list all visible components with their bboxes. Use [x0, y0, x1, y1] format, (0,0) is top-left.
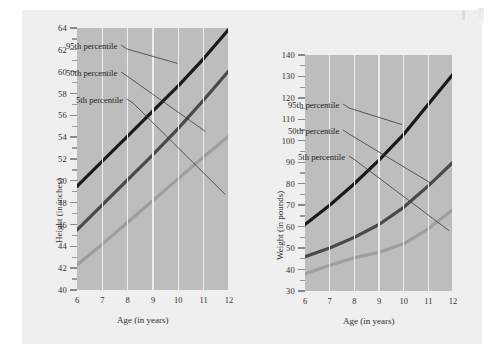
y-axis-tick [298, 119, 305, 120]
gridline [178, 28, 179, 290]
y-axis-tick [70, 136, 77, 137]
weight-chart-plot-area [305, 55, 453, 291]
x-axis-tick-label: 10 [399, 296, 408, 306]
y-axis-tick [298, 54, 305, 55]
gridline [228, 28, 229, 290]
series-annotation-label: 5th percentile [76, 95, 123, 105]
y-axis-tick [70, 180, 77, 181]
gridline [203, 28, 204, 290]
y-axis-tick-label: 30 [286, 286, 295, 296]
weight-chart-x-axis-title: Age (in years) [343, 316, 394, 326]
series-annotation-label: 50th percentile [288, 126, 339, 136]
gridline [329, 55, 330, 291]
series-annotation-label: 95th percentile [288, 100, 339, 110]
y-axis-tick [70, 93, 77, 94]
y-axis-tick-label: 100 [282, 136, 295, 146]
y-axis-tick [70, 267, 77, 268]
x-axis-tick-label: 11 [200, 295, 208, 305]
y-axis-tick-label: 110 [282, 114, 295, 124]
series-annotation-label: 50th percentile [66, 68, 117, 78]
gridline [127, 28, 128, 290]
gridline [452, 55, 453, 291]
series-annotation-label: 95th percentile [66, 41, 117, 51]
x-axis-tick-label: 6 [303, 296, 307, 306]
height-chart-y-axis-title: Height (in inches) [54, 178, 64, 243]
x-axis-tick-label: 12 [225, 295, 234, 305]
x-axis-tick-label: 6 [75, 295, 79, 305]
page-corner-tick [462, 10, 465, 20]
y-axis-tick-label: 64 [58, 23, 67, 33]
y-axis-tick [70, 289, 77, 290]
y-axis-tick [298, 204, 305, 205]
y-axis-tick-label: 140 [282, 50, 295, 60]
y-axis-tick-label: 50 [286, 243, 295, 253]
x-axis-tick-label: 10 [174, 295, 183, 305]
y-axis-tick [298, 97, 305, 98]
gridline [378, 55, 379, 291]
y-axis-tick [298, 226, 305, 227]
x-axis-tick-label: 8 [352, 296, 356, 306]
gridline [428, 55, 429, 291]
y-axis-tick-label: 40 [286, 265, 295, 275]
x-axis-tick-label: 7 [100, 295, 104, 305]
y-axis-tick-label: 90 [286, 157, 295, 167]
y-axis-tick-label: 80 [286, 179, 295, 189]
y-axis-tick-label: 70 [286, 200, 295, 210]
y-axis-tick-label: 52 [58, 154, 67, 164]
y-axis-tick [298, 140, 305, 141]
y-axis-tick [70, 224, 77, 225]
weight-chart-y-axis-title: Weight (in pounds) [275, 191, 285, 260]
weight-chart: 30405060708090100110120130140 Weight (in… [272, 55, 462, 330]
height-chart-x-axis-title: Age (in years) [117, 315, 168, 325]
y-axis-tick [70, 27, 77, 28]
gridline [403, 55, 404, 291]
y-axis-tick-label: 56 [58, 110, 67, 120]
x-axis-tick-label: 7 [328, 296, 332, 306]
x-axis-tick-label: 9 [151, 295, 155, 305]
y-axis-tick [298, 183, 305, 184]
y-axis-tick [298, 247, 305, 248]
x-axis-tick-label: 11 [424, 296, 432, 306]
y-axis-tick-label: 42 [58, 263, 67, 273]
y-axis-tick [298, 290, 305, 291]
y-axis-tick [70, 158, 77, 159]
x-axis-tick-label: 9 [377, 296, 381, 306]
gridline [354, 55, 355, 291]
y-axis-tick-label: 60 [286, 222, 295, 232]
y-axis-tick-label: 54 [58, 132, 67, 142]
y-axis-tick [70, 202, 77, 203]
x-axis-tick-label: 8 [126, 295, 130, 305]
y-axis-tick-label: 130 [282, 71, 295, 81]
x-axis-tick-label: 12 [449, 296, 458, 306]
y-axis-tick [70, 115, 77, 116]
y-axis-tick-label: 58 [58, 89, 67, 99]
y-axis-tick [298, 76, 305, 77]
page-corner-mark [478, 8, 484, 24]
gridline [152, 28, 153, 290]
y-axis-tick [298, 269, 305, 270]
y-axis-tick [70, 246, 77, 247]
figure-page: 40424446485052545658606264 Height (in in… [0, 0, 504, 358]
y-axis-tick-label: 40 [58, 285, 67, 295]
series-annotation-label: 5th percentile [298, 152, 345, 162]
height-chart: 40424446485052545658606264 Height (in in… [48, 28, 238, 328]
